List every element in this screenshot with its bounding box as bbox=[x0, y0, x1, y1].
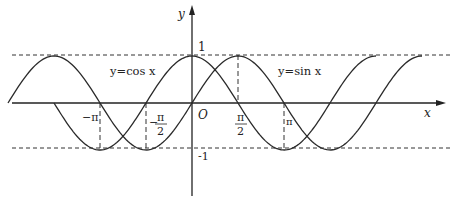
trig-graph: y x O 1 -1 y=cos x y=sin x −π − π 2 π 2 … bbox=[0, 0, 458, 204]
cosine-label: y=cos x bbox=[109, 64, 156, 78]
x-tick-half-pi-den: 2 bbox=[237, 125, 244, 138]
y-tick-minus-1: -1 bbox=[198, 150, 209, 163]
sine-label: y=sin x bbox=[277, 64, 322, 78]
x-tick-neg-pi: −π bbox=[82, 111, 98, 124]
x-axis-label: x bbox=[424, 106, 431, 120]
y-axis-label: y bbox=[177, 7, 185, 21]
y-tick-1: 1 bbox=[198, 40, 206, 54]
x-tick-half-pi-num: π bbox=[237, 111, 244, 124]
x-tick-neg-half-pi-den: 2 bbox=[157, 125, 164, 138]
x-axis-arrow-icon bbox=[436, 100, 446, 106]
x-tick-pi: π bbox=[286, 116, 293, 127]
origin-label: O bbox=[198, 108, 208, 122]
x-tick-neg-half-pi-num: π bbox=[157, 111, 164, 124]
y-axis-arrow-icon bbox=[189, 5, 195, 15]
